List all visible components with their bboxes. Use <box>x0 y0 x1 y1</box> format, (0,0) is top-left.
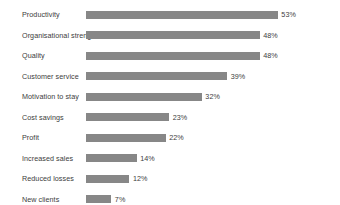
bar-value-label: 23% <box>173 112 188 123</box>
bar-row: Productivity 53% <box>0 9 340 20</box>
bar-track: 22% <box>86 132 340 143</box>
bar-row: Organisational strength 48% <box>0 30 340 41</box>
bar-row: New clients 7% <box>0 194 340 205</box>
bar-row: Quality 48% <box>0 50 340 61</box>
category-label: Productivity <box>0 9 86 20</box>
bar-row: Cost savings 23% <box>0 112 340 123</box>
bar-track: 32% <box>86 91 340 102</box>
bar-track: 39% <box>86 71 340 82</box>
category-label: Organisational strength <box>0 30 86 41</box>
bar-fill <box>86 175 129 183</box>
bar-value-label: 53% <box>281 9 296 20</box>
bar-fill <box>86 134 166 142</box>
bar-track: 14% <box>86 153 340 164</box>
bar-fill <box>86 72 227 80</box>
bar-rows-container: Productivity 53% Organisational strength… <box>0 9 340 205</box>
bar-value-label: 14% <box>140 153 155 164</box>
bar-value-label: 48% <box>263 30 278 41</box>
bar-value-label: 39% <box>231 71 246 82</box>
bar-value-label: 22% <box>169 132 184 143</box>
bar-value-label: 12% <box>133 173 148 184</box>
bar-fill <box>86 31 260 39</box>
bar-track: 7% <box>86 194 340 205</box>
bar-row: Customer service 39% <box>0 71 340 82</box>
horizontal-bar-chart: Productivity 53% Organisational strength… <box>0 0 340 205</box>
bar-track: 48% <box>86 50 340 61</box>
category-label: New clients <box>0 194 86 205</box>
bar-value-label: 32% <box>205 91 220 102</box>
category-label: Motivation to stay <box>0 91 86 102</box>
bar-row: Profit 22% <box>0 132 340 143</box>
category-label: Profit <box>0 132 86 143</box>
bar-row: Increased sales 14% <box>0 153 340 164</box>
bar-fill <box>86 52 260 60</box>
category-label: Cost savings <box>0 112 86 123</box>
bar-row: Motivation to stay 32% <box>0 91 340 102</box>
bar-fill <box>86 11 278 19</box>
bar-fill <box>86 154 137 162</box>
bar-fill <box>86 195 111 203</box>
bar-track: 23% <box>86 112 340 123</box>
category-label: Reduced losses <box>0 173 86 184</box>
category-label: Customer service <box>0 71 86 82</box>
bar-track: 48% <box>86 30 340 41</box>
bar-fill <box>86 93 202 101</box>
bar-row: Reduced losses 12% <box>0 173 340 184</box>
bar-fill <box>86 113 169 121</box>
category-label: Increased sales <box>0 153 86 164</box>
bar-track: 12% <box>86 173 340 184</box>
category-label: Quality <box>0 50 86 61</box>
bar-track: 53% <box>86 9 340 20</box>
bar-value-label: 7% <box>115 194 126 205</box>
bar-value-label: 48% <box>263 50 278 61</box>
